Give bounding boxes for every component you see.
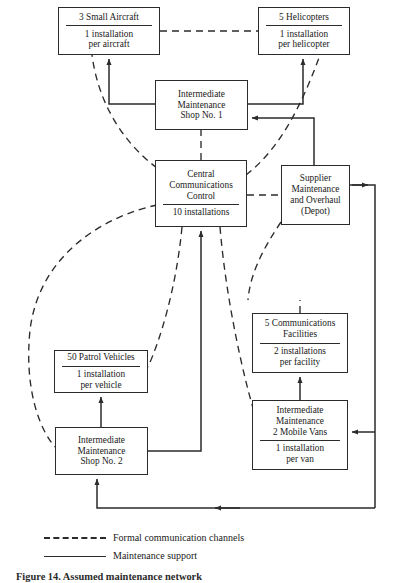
edge-central-vans: [220, 227, 256, 418]
legend-label-formal: Formal communication channels: [113, 532, 244, 544]
node-central-communications-control[interactable]: Central Communications Control 10 instal…: [155, 160, 247, 227]
node-helicopters-title: 5 Helicopters: [259, 10, 349, 25]
node-patrol-vehicles-detail: 1 installation per vehicle: [55, 367, 147, 393]
edge-shop2-central: [148, 231, 201, 451]
legend: Formal communication channels Maintenanc…: [44, 529, 354, 565]
node-supplier-depot[interactable]: Supplier Maintenance and Overhaul (Depot…: [281, 165, 350, 225]
edge-central-patrol: [148, 227, 182, 367]
edge-supplier-shop1: [252, 118, 314, 165]
node-mobile-vans[interactable]: Intermediate Maintenance 2 Mobile Vans 1…: [252, 400, 348, 470]
node-mobile-vans-detail: 1 installation per van: [253, 441, 347, 467]
figure-root: 3 Small Aircraft 1 installation per airc…: [0, 0, 393, 583]
node-shop-two-title: Intermediate Maintenance Shop No. 2: [56, 432, 147, 470]
node-shop-one[interactable]: Intermediate Maintenance Shop No. 1: [155, 80, 248, 130]
dashed-line-icon: [44, 537, 106, 539]
node-supplier-title: Supplier Maintenance and Overhaul (Depot…: [282, 170, 349, 219]
node-shop-two[interactable]: Intermediate Maintenance Shop No. 2: [55, 427, 148, 475]
node-patrol-vehicles[interactable]: 50 Patrol Vehicles 1 installation per ve…: [54, 350, 148, 393]
solid-line-icon: [44, 556, 106, 557]
legend-item-formal: Formal communication channels: [44, 529, 354, 547]
node-patrol-vehicles-title: 50 Patrol Vehicles: [55, 350, 147, 365]
node-small-aircraft-title: 3 Small Aircraft: [59, 10, 159, 25]
edge-supplier-trunk: [350, 185, 375, 508]
edge-central-aircraft: [92, 55, 157, 168]
node-helicopters[interactable]: 5 Helicopters 1 installation per helicop…: [258, 7, 350, 55]
edge-central-left-loop: [29, 205, 157, 447]
edge-central-helicopters: [246, 55, 320, 175]
edge-shop1-helicopters: [248, 59, 303, 104]
node-communications-facilities-detail: 2 installations per facility: [253, 344, 347, 370]
edge-rail-shop2: [97, 479, 375, 508]
edge-supplier-sweep: [248, 222, 281, 300]
node-shop-one-title: Intermediate Maintenance Shop No. 1: [156, 86, 247, 124]
node-helicopters-detail: 1 installation per helicopter: [259, 26, 349, 52]
legend-item-maintenance: Maintenance support: [44, 547, 354, 565]
legend-label-maintenance: Maintenance support: [113, 550, 197, 562]
node-central-detail: 10 installations: [156, 205, 246, 220]
node-communications-facilities-title: 5 Communications Facilities: [253, 316, 347, 342]
node-communications-facilities[interactable]: 5 Communications Facilities 2 installati…: [252, 313, 348, 373]
node-small-aircraft[interactable]: 3 Small Aircraft 1 installation per airc…: [58, 7, 160, 55]
edge-shop1-aircraft: [109, 59, 155, 104]
node-small-aircraft-detail: 1 installation per aircraft: [59, 26, 159, 52]
node-central-title: Central Communications Control: [156, 167, 246, 204]
figure-caption: Figure 14. Assumed maintenance network: [16, 570, 386, 583]
node-mobile-vans-title: Intermediate Maintenance 2 Mobile Vans: [253, 403, 347, 440]
